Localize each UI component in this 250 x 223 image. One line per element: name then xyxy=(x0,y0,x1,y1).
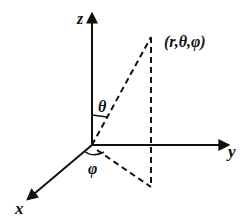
x-axis-label: x xyxy=(14,199,24,218)
y-axis-label: y xyxy=(226,142,236,161)
spherical-coordinates-diagram: z y x (r,θ,φ) θ φ xyxy=(0,0,250,223)
radius-vector xyxy=(92,37,151,145)
theta-arc xyxy=(92,115,107,117)
x-axis xyxy=(28,145,92,199)
z-axis-label: z xyxy=(76,10,84,27)
theta-label: θ xyxy=(98,98,107,115)
xy-projection xyxy=(97,150,151,187)
phi-label: φ xyxy=(88,160,97,178)
point-label: (r,θ,φ) xyxy=(164,33,206,51)
